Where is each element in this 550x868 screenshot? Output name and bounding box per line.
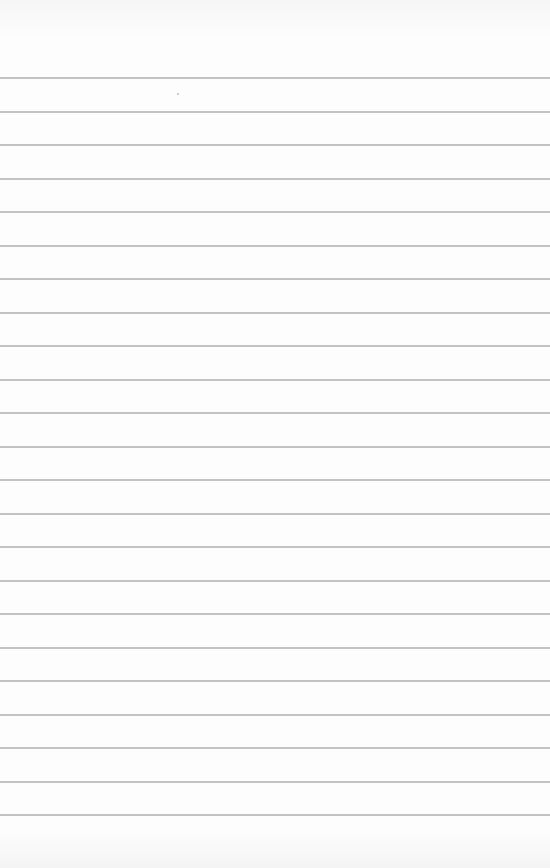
ruled-line [0, 580, 550, 582]
lined-paper-sheet [0, 0, 550, 868]
ruled-line [0, 680, 550, 682]
ruled-line [0, 479, 550, 481]
ruled-line [0, 814, 550, 816]
ruled-line [0, 613, 550, 615]
ruled-line [0, 345, 550, 347]
ruled-line [0, 312, 550, 314]
ruled-line [0, 714, 550, 716]
ruled-line [0, 546, 550, 548]
ruled-line [0, 77, 550, 79]
ruled-line [0, 747, 550, 749]
ruled-line [0, 178, 550, 180]
paper-speck [177, 93, 179, 95]
ruled-line [0, 513, 550, 515]
ruled-line [0, 647, 550, 649]
ruled-line [0, 245, 550, 247]
ruled-line [0, 379, 550, 381]
ruled-line [0, 446, 550, 448]
ruled-line [0, 144, 550, 146]
ruled-line [0, 211, 550, 213]
ruled-line [0, 278, 550, 280]
ruled-line [0, 412, 550, 414]
ruled-line [0, 111, 550, 113]
ruled-line [0, 781, 550, 783]
